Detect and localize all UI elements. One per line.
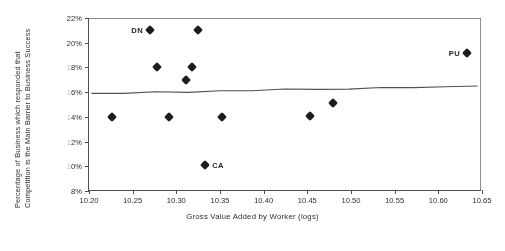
y-axis-tick-label: 8% — [71, 187, 82, 196]
x-axis-tick-mark — [395, 190, 396, 194]
y-axis-tick-label: 20% — [67, 38, 82, 47]
x-axis-tick-mark — [351, 190, 352, 194]
x-axis-tick-label: 10.30 — [167, 196, 186, 205]
y-axis-tick-mark — [85, 92, 89, 93]
x-axis-tick-label: 10.45 — [298, 196, 317, 205]
x-axis-tick-label: 10.20 — [79, 196, 98, 205]
y-axis-tick-label: 18% — [67, 63, 82, 72]
x-axis-tick-mark — [176, 190, 177, 194]
y-axis-tick-mark — [85, 142, 89, 143]
x-axis-tick-label: 10.60 — [429, 196, 448, 205]
x-axis-tick-mark — [307, 190, 308, 194]
x-axis-tick-mark — [264, 190, 265, 194]
x-axis-tick-label: 10.55 — [385, 196, 404, 205]
data-point-label-ca: CA — [212, 161, 224, 170]
y-axis-tick-mark — [85, 43, 89, 44]
scatter-chart-figure: Percentage of Business which responded t… — [0, 0, 505, 251]
x-axis-tick-label: 10.50 — [341, 196, 360, 205]
y-axis-tick-mark — [85, 18, 89, 19]
y-axis-title-line1: Percentage of Business which responded t… — [13, 51, 23, 208]
x-axis-tick-mark — [89, 190, 90, 194]
y-axis-tick-mark — [85, 67, 89, 68]
x-axis-tick-mark — [133, 190, 134, 194]
x-axis-tick-label: 10.65 — [472, 196, 491, 205]
y-axis-tick-label: 14% — [67, 112, 82, 121]
y-axis-tick-label: 10% — [67, 162, 82, 171]
x-axis-tick-mark — [438, 190, 439, 194]
y-axis-tick-label: 16% — [67, 88, 82, 97]
y-axis-tick-mark — [85, 166, 89, 167]
y-axis-tick-label: 22% — [67, 14, 82, 23]
x-axis-tick-label: 10.35 — [210, 196, 229, 205]
data-point-label-dn: DN — [131, 26, 143, 35]
y-axis-tick-mark — [85, 117, 89, 118]
x-axis-tick-mark — [220, 190, 221, 194]
x-axis-tick-label: 10.40 — [254, 196, 273, 205]
data-point-label-pu: PU — [449, 48, 460, 57]
y-axis-tick-label: 12% — [67, 137, 82, 146]
x-axis-tick-label: 10.25 — [123, 196, 142, 205]
plot-area: 22%20%18%16%14%12%10%8%10.2010.2510.3010… — [88, 18, 481, 191]
y-axis-title-line2: Competition is the Main Barrier to Busin… — [23, 29, 33, 208]
trendline-path — [91, 86, 477, 93]
x-axis-tick-mark — [482, 190, 483, 194]
x-axis-title: Gross Value Added by Worker (logs) — [0, 212, 505, 221]
trendline — [89, 18, 482, 191]
